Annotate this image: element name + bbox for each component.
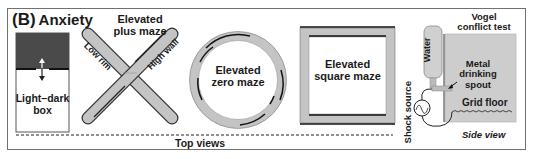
side-view-label: Side view (462, 130, 505, 140)
plus-maze (88, 31, 172, 118)
panel-label: (B) (12, 10, 36, 29)
top-views-label: Top views (175, 138, 225, 150)
zero-maze-label: Elevated zero maze (200, 64, 276, 88)
grid-floor-label: Grid floor (462, 97, 508, 108)
light-dark-box (16, 33, 69, 132)
water-label: Water (423, 38, 433, 63)
square-maze-label: Elevated square maze (305, 58, 390, 82)
light-dark-box-label: Light–dark box (14, 93, 71, 116)
spout-label: Metal drinking spout (453, 59, 503, 90)
panel-title: (B)Anxiety (12, 11, 93, 30)
shock-source-label: Shock source (403, 81, 413, 143)
plus-maze-title: Elevated plus maze (100, 13, 180, 37)
vogel-title: Vogel conflict test (448, 12, 520, 33)
panel-heading: Anxiety (39, 11, 93, 28)
